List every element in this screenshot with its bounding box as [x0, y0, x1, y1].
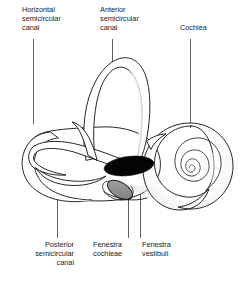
label-anterior-semicircular-canal: Anterior semicircular canal	[100, 5, 162, 33]
label-fenestra-vestibuli: Fenestra vestibuli	[142, 240, 188, 258]
label-horizontal-semicircular-canal: Horizontal semicircular canal	[22, 5, 84, 33]
label-posterior-semicircular-canal: Posterior semicircular canal	[8, 240, 74, 268]
cochlea-spiral-turn-3	[186, 159, 200, 176]
label-fenestra-cochleae: Fenestra cochleae	[93, 240, 139, 258]
label-cochlea: Cochlea	[180, 23, 240, 32]
inner-ear-figure: Horizontal semicircular canal Anterior s…	[0, 0, 247, 288]
labyrinth-body	[22, 58, 233, 210]
cochlea-spiral-core	[189, 165, 195, 172]
cochlea-spiral-turn-2	[181, 150, 209, 181]
